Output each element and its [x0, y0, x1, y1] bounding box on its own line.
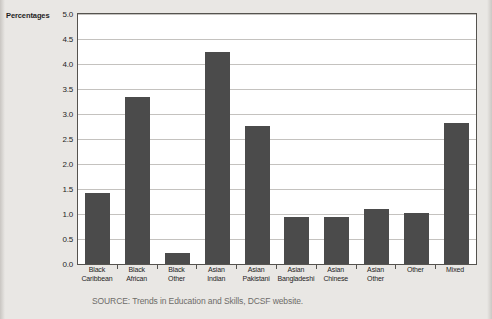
x-axis-label-line2: Pakistani	[236, 275, 276, 284]
x-axis-tick-label: AsianPakistani	[236, 266, 276, 283]
y-axis-tick-label: 2.0	[62, 160, 73, 169]
x-axis-tick-label: AsianBangladeshi	[276, 266, 316, 283]
x-axis-label-line2: African	[117, 275, 157, 284]
y-axis-tick-labels: 0.00.51.01.52.02.53.03.54.04.55.0	[50, 13, 76, 265]
x-axis-label-line2: Caribbean	[77, 275, 117, 284]
y-axis-tick-label: 1.0	[62, 210, 73, 219]
y-axis-tick-label: 0.0	[62, 260, 73, 269]
page-edge-right	[487, 0, 492, 319]
bar	[165, 253, 190, 264]
x-axis-label-line1: Asian	[367, 266, 384, 273]
bar-series	[78, 14, 476, 264]
y-axis-tick-label: 4.0	[62, 60, 73, 69]
page-edge-left	[0, 0, 5, 319]
bar	[324, 217, 349, 265]
x-axis-label-line2: Bangladeshi	[276, 275, 316, 284]
y-axis-tick-label: 5.0	[62, 10, 73, 19]
bar	[364, 209, 389, 264]
bar	[284, 217, 309, 265]
plot-area	[77, 13, 477, 265]
bar	[205, 52, 230, 265]
x-axis-tick-label: Mixed	[435, 266, 475, 275]
x-axis-tick-label: AsianIndian	[196, 266, 236, 283]
x-axis-label-line2: Indian	[196, 275, 236, 284]
x-axis-tick-label: Other	[395, 266, 435, 275]
chart-title-cropped	[0, 0, 492, 6]
x-axis-label-line2: Other	[356, 275, 396, 284]
y-axis-tick-label: 3.0	[62, 110, 73, 119]
x-axis-label-line2: Other	[157, 275, 197, 284]
x-axis-label-line1: Asian	[208, 266, 225, 273]
x-axis-label-line1: Asian	[288, 266, 305, 273]
x-axis-tick-label: BlackCaribbean	[77, 266, 117, 283]
x-axis-tick-label: BlackOther	[157, 266, 197, 283]
x-axis-tick-labels: BlackCaribbeanBlackAfricanBlackOtherAsia…	[77, 266, 477, 294]
y-axis-tick-label: 4.5	[62, 35, 73, 44]
y-axis-tick-label: 1.5	[62, 185, 73, 194]
x-axis-label-line1: Black	[168, 266, 184, 273]
x-axis-label-line1: Other	[407, 266, 424, 273]
bar	[444, 123, 469, 265]
y-axis-tick-label: 0.5	[62, 235, 73, 244]
bar	[404, 213, 429, 265]
x-axis-label-line2: Chinese	[316, 275, 356, 284]
x-axis-label-line1: Black	[89, 266, 105, 273]
x-axis-label-line1: Asian	[327, 266, 344, 273]
x-axis-tick-label: AsianOther	[356, 266, 396, 283]
y-axis-title: Percentages	[6, 11, 50, 20]
bar	[125, 97, 150, 265]
x-axis-label-line1: Black	[129, 266, 145, 273]
source-note: SOURCE: Trends in Education and Skills, …	[92, 296, 303, 306]
bar	[245, 126, 270, 265]
y-axis-tick-label: 2.5	[62, 135, 73, 144]
x-axis-label-line1: Mixed	[446, 266, 464, 273]
bar	[85, 193, 110, 265]
x-axis-label-line1: Asian	[248, 266, 265, 273]
x-axis-tick-label: BlackAfrican	[117, 266, 157, 283]
y-axis-tick-label: 3.5	[62, 85, 73, 94]
x-axis-tick-label: AsianChinese	[316, 266, 356, 283]
